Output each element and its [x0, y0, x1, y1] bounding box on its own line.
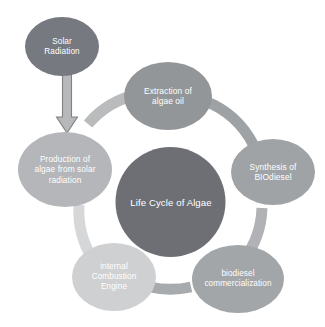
arc-commerc-engine: [150, 287, 191, 289]
node-ellipse-engine: [72, 243, 156, 311]
arc-extraction-synthesis: [205, 101, 253, 144]
node-ellipse-extraction: [124, 62, 212, 130]
down-arrow-icon: [57, 74, 78, 133]
node-ellipse-synthesis: [231, 139, 315, 205]
node-ellipse-production: [18, 132, 112, 207]
node-ellipse-commercialization: [192, 245, 284, 313]
diagram-shapes: [0, 0, 325, 327]
life-cycle-of-algae-diagram: Solar Radiation Extraction of algae oil …: [0, 0, 325, 327]
node-ellipse-solar-radiation: [25, 17, 99, 76]
center-circle-life-cycle-of-algae: [116, 147, 226, 257]
